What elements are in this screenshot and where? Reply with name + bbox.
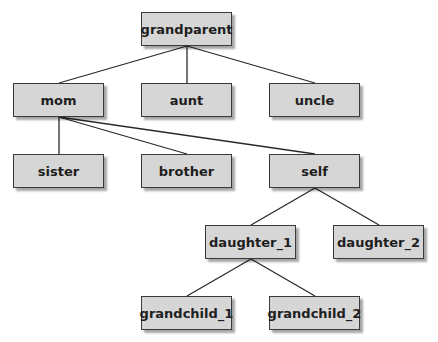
node-aunt: aunt bbox=[141, 83, 232, 117]
edge-self-daughter2 bbox=[315, 188, 379, 225]
node-daughter-2: daughter_2 bbox=[333, 225, 424, 259]
node-mom: mom bbox=[13, 83, 104, 117]
edge-daughter1-grandchild2 bbox=[251, 259, 315, 296]
node-daughter-1: daughter_1 bbox=[205, 225, 296, 259]
node-grandparent: grandparent bbox=[141, 12, 232, 46]
node-self: self bbox=[269, 154, 360, 188]
node-grandchild-1: grandchild_1 bbox=[141, 296, 232, 330]
node-brother: brother bbox=[141, 154, 232, 188]
edge-grandparent-mom bbox=[59, 46, 187, 83]
node-sister: sister bbox=[13, 154, 104, 188]
edge-grandparent-uncle bbox=[187, 46, 315, 83]
edge-mom-brother bbox=[59, 117, 187, 154]
node-uncle: uncle bbox=[269, 83, 360, 117]
edge-self-daughter1 bbox=[251, 188, 315, 225]
edge-mom-self bbox=[59, 117, 315, 154]
edge-daughter1-grandchild1 bbox=[187, 259, 251, 296]
node-grandchild-2: grandchild_2 bbox=[269, 296, 360, 330]
